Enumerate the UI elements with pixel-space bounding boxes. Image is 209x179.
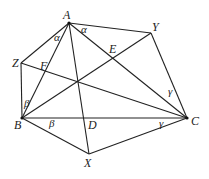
angle-label-0: α (54, 31, 60, 43)
segment-za (21, 23, 69, 63)
point-label-d: D (87, 118, 97, 132)
segment-ac (69, 23, 187, 118)
angle-label-1: α (81, 23, 87, 35)
segment-ax (69, 23, 89, 154)
segment-bz (21, 63, 22, 118)
point-label-a: A (62, 8, 71, 22)
angle-label-4: γ (168, 85, 173, 97)
point-label-y: Y (152, 20, 160, 34)
segment-xb (22, 118, 89, 154)
angle-labels-group: ααββγγ (23, 23, 173, 129)
point-label-x: X (83, 156, 92, 170)
angle-label-5: γ (159, 117, 164, 129)
point-label-c: C (191, 114, 200, 128)
segment-cx (89, 118, 187, 154)
angle-label-2: β (23, 97, 30, 109)
angle-label-3: β (48, 117, 55, 129)
geometry-diagram: AYZBCXDEF ααββγγ (0, 0, 209, 179)
segments-group (21, 23, 187, 154)
point-label-e: E (108, 42, 117, 56)
point-label-z: Z (12, 56, 19, 70)
point-label-f: F (39, 59, 48, 73)
point-label-b: B (14, 118, 22, 132)
vertex-dot-c (185, 116, 188, 119)
segment-yc (151, 33, 187, 118)
